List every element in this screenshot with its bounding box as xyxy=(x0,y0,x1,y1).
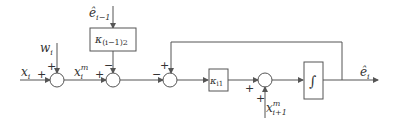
x-next-label: xmi+1 xyxy=(266,99,287,117)
summing-junction-2 xyxy=(106,73,120,87)
w-i-label: wi xyxy=(40,41,53,57)
x-m-label: xmi xyxy=(74,63,89,81)
sum4-left-sign: + xyxy=(245,82,254,95)
e-prev-label: êi−1 xyxy=(89,6,110,22)
sum1-left-sign: + xyxy=(37,68,46,81)
sum2-left-sign: + xyxy=(95,68,104,81)
sum4-bottom-sign: + xyxy=(256,92,265,105)
e-i-output-label: êi xyxy=(360,65,370,81)
sum1-top-sign: + xyxy=(47,60,56,73)
integrator-symbol: ∫ xyxy=(309,73,316,89)
summing-junction-4 xyxy=(258,73,272,87)
block-diagram: xi + wi + xmi + êi−1 κ(i−1)2 − − + κi1 +… xyxy=(0,0,396,127)
summing-junction-3 xyxy=(163,73,177,87)
sum3-top-sign: + xyxy=(160,59,169,72)
x-i-label: xi xyxy=(21,65,31,81)
summing-junction-1 xyxy=(50,73,64,87)
sum2-top-sign: − xyxy=(104,59,113,72)
